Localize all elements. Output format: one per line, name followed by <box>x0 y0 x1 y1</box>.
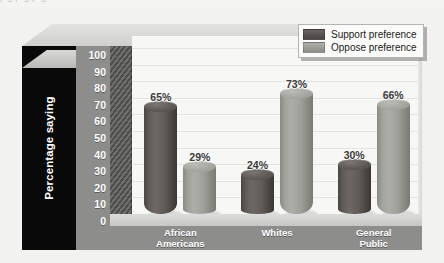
y-axis-title: Percentage saying <box>43 96 55 199</box>
category-label-0: AfricanAmericans <box>132 227 229 249</box>
category-axis-labels: AfricanAmericansWhitesGeneralPublic <box>110 226 422 250</box>
y-axis-tick-40: 40 <box>94 150 106 161</box>
y-axis-tick-60: 60 <box>94 116 106 127</box>
legend-entry-0: Support preference <box>303 28 417 41</box>
y-axis-tick-50: 50 <box>94 133 106 144</box>
cylinder-body <box>183 166 216 214</box>
y-axis-tick-10: 10 <box>94 199 106 210</box>
category-label-line: Whites <box>229 227 326 238</box>
y-axis-tick-80: 80 <box>94 83 106 94</box>
y-axis-title-block: Percentage saying <box>22 46 76 250</box>
legend-label: Support preference <box>331 29 417 40</box>
bar-value-label: 29% <box>189 151 210 163</box>
bar-support-0: 65% <box>144 106 177 214</box>
plot-area: 65%29%24%73%30%66% <box>132 36 422 214</box>
category-label-line: Americans <box>132 238 229 249</box>
cylinder-body <box>241 174 274 214</box>
category-label-2: GeneralPublic <box>325 227 422 249</box>
category-label-1: Whites <box>229 227 326 238</box>
plot-right-edge <box>418 36 422 214</box>
bar-support-1: 24% <box>241 174 274 214</box>
bar-oppose-0: 29% <box>183 166 216 214</box>
clipped-text: y g p g p g <box>0 0 47 2</box>
chart-legend: Support preferenceOppose preference <box>298 24 424 58</box>
bar-value-label: 66% <box>383 89 404 101</box>
y-axis-tick-0: 0 <box>100 216 106 227</box>
chart-screenshot: y g p g p g Percentage saying 1009080706… <box>0 0 444 263</box>
bar-value-label: 30% <box>344 149 365 161</box>
y-axis-tick-70: 70 <box>94 100 106 111</box>
category-label-line: General <box>325 227 422 238</box>
bar-oppose-2: 66% <box>377 104 410 214</box>
category-label-line: Public <box>325 238 422 249</box>
cylinder-body <box>144 106 177 214</box>
legend-swatch-light <box>303 42 325 53</box>
cylinder-body <box>338 164 371 214</box>
bar-support-2: 30% <box>338 164 371 214</box>
legend-label: Oppose preference <box>331 42 417 53</box>
cylinder-body <box>280 93 313 214</box>
y-axis-tick-90: 90 <box>94 67 106 78</box>
clipped-text-remnant: y g p g p g <box>0 0 444 7</box>
y-axis-tick-block: 1009080706050403020100 <box>76 46 110 250</box>
bar-value-label: 73% <box>286 78 307 90</box>
bars-layer: 65%29%24%73%30%66% <box>132 36 422 214</box>
chart-frame: Percentage saying 1009080706050403020100… <box>22 24 422 250</box>
legend-entry-1: Oppose preference <box>303 41 417 54</box>
legend-swatch-dark <box>303 29 325 40</box>
y-axis-tick-100: 100 <box>88 50 106 61</box>
bar-value-label: 65% <box>150 91 171 103</box>
cylinder-body <box>377 104 410 214</box>
bar-oppose-1: 73% <box>280 93 313 214</box>
y-axis-tick-30: 30 <box>94 166 106 177</box>
bar-value-label: 24% <box>247 159 268 171</box>
category-label-line: African <box>132 227 229 238</box>
floor-top-face <box>110 214 422 226</box>
y-axis-tick-20: 20 <box>94 183 106 194</box>
